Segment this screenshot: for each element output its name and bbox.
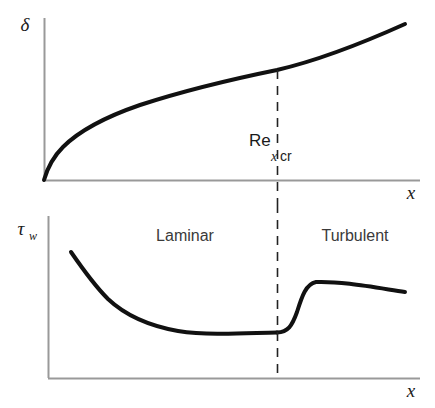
top-panel-y-axis-label: δ <box>21 14 31 35</box>
reynolds-label-sub-cr: cr <box>280 148 292 164</box>
tau-subscript-w: w <box>29 229 37 243</box>
region-label-laminar: Laminar <box>156 227 214 244</box>
bottom-panel-x-axis-label: x <box>406 380 416 401</box>
region-label-turbulent: Turbulent <box>322 227 390 244</box>
laminar-shear-curve <box>71 252 277 334</box>
tau-symbol: τ <box>18 218 26 239</box>
reynolds-critical-annotation: Re x cr <box>249 131 292 164</box>
boundary-layer-figure: δ x Re x cr τ w <box>0 0 435 408</box>
reynolds-label-main: Re <box>249 131 271 150</box>
bottom-panel-y-axis-label: τ w <box>18 218 37 243</box>
figure-container: δ x Re x cr τ w <box>0 0 435 408</box>
reynolds-label-sub-x: x <box>270 149 278 164</box>
wall-shear-stress-panel: τ w x Laminar Turbulent <box>18 204 420 401</box>
turbulent-shear-curve <box>277 282 405 333</box>
top-panel-x-axis-label: x <box>406 182 416 203</box>
delta-curve <box>44 24 405 180</box>
boundary-layer-thickness-panel: δ x Re x cr <box>21 14 420 204</box>
